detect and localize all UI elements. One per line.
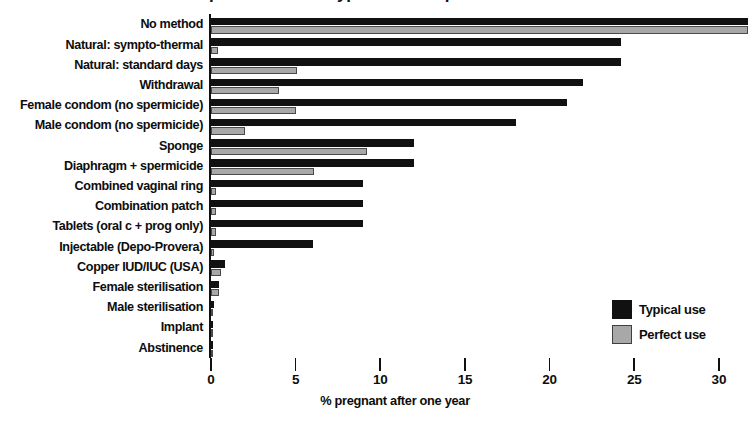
black-square-swatch (612, 300, 632, 319)
legend-item: Typical use (612, 300, 706, 319)
bar-typical (211, 281, 219, 288)
x-axis-tick (549, 358, 551, 371)
bar-typical (211, 341, 213, 348)
category-label: Male condom (no spermicide) (0, 119, 203, 132)
category-axis-labels: No methodNatural: sympto-thermalNatural:… (0, 14, 203, 358)
category-label: Sponge (0, 140, 203, 153)
category-label: Injectable (Depo-Provera) (0, 241, 203, 254)
x-axis-tick-label: 5 (292, 372, 299, 387)
bar-perfect (211, 188, 216, 195)
x-axis-title-text: % pregnant after one year (278, 393, 470, 408)
bar-typical (211, 260, 225, 267)
bar-perfect (211, 329, 213, 336)
gray-square-swatch (612, 325, 632, 344)
category-label: Female sterilisation (0, 281, 203, 294)
bar-typical (211, 58, 621, 65)
category-label: Female condom (no spermicide) (0, 99, 203, 112)
chart-legend: Typical usePerfect use (612, 300, 748, 350)
bar-perfect (211, 208, 216, 215)
x-axis-tick-label: 25 (627, 372, 642, 387)
x-axis-tick (210, 358, 212, 371)
bar-perfect (211, 107, 296, 114)
x-axis-tick-label: 20 (542, 372, 557, 387)
x-axis-tick-label: 30 (712, 372, 727, 387)
bar-typical (211, 119, 516, 126)
x-axis-tick (718, 358, 720, 371)
bar-perfect (211, 87, 279, 94)
x-axis-tick (633, 358, 635, 371)
bar-typical (211, 99, 567, 106)
category-label: Abstinence (0, 342, 203, 355)
bar-perfect (211, 168, 314, 175)
bar-perfect (211, 350, 213, 357)
bar-perfect (211, 67, 297, 74)
category-label: Natural: sympto-thermal (0, 39, 203, 52)
bar-typical (211, 321, 213, 328)
bar-typical (211, 79, 583, 86)
category-label: Combination patch (0, 200, 203, 213)
category-label: Natural: standard days (0, 59, 203, 72)
bar-typical (211, 159, 414, 166)
bar-typical (211, 240, 313, 247)
bar-perfect (211, 289, 219, 296)
category-label: Male sterilisation (0, 301, 203, 314)
x-axis: % pregnant after one year 051015202530 (0, 358, 748, 428)
category-label: Implant (0, 321, 203, 334)
x-axis-tick-label: 10 (373, 372, 388, 387)
category-label: Withdrawal (0, 79, 203, 92)
bar-typical (211, 139, 414, 146)
bar-perfect (211, 309, 213, 316)
bar-typical (211, 220, 363, 227)
category-label: Tablets (oral c + prog only) (0, 220, 203, 233)
legend-label: Perfect use (639, 327, 706, 342)
x-axis-tick (295, 358, 297, 371)
chart-title-text: Effectiveness of contraceptive methods: … (8, 0, 533, 4)
category-label: Combined vaginal ring (0, 180, 203, 193)
x-axis-tick-label: 15 (458, 372, 473, 387)
bar-perfect (211, 26, 748, 33)
chart-title-cropped: Effectiveness of contraceptive methods: … (0, 0, 748, 11)
category-label: Diaphragm + spermicide (0, 160, 203, 173)
x-axis-title: % pregnant after one year (0, 393, 748, 408)
bar-perfect (211, 249, 214, 256)
x-axis-tick-label: 0 (207, 372, 214, 387)
bar-perfect (211, 47, 218, 54)
bar-typical (211, 200, 363, 207)
bar-perfect (211, 148, 367, 155)
contraceptive-effectiveness-bar-chart: Effectiveness of contraceptive methods: … (0, 0, 748, 428)
bar-typical (211, 38, 621, 45)
x-axis-tick (464, 358, 466, 371)
bar-perfect (211, 269, 221, 276)
bar-perfect (211, 228, 216, 235)
bar-typical (211, 301, 214, 308)
bar-typical (211, 18, 748, 25)
x-axis-tick (379, 358, 381, 371)
legend-label: Typical use (639, 302, 706, 317)
bar-perfect (211, 127, 245, 134)
bar-typical (211, 180, 363, 187)
legend-item: Perfect use (612, 325, 706, 344)
category-label: No method (0, 18, 203, 31)
category-label: Copper IUD/IUC (USA) (0, 261, 203, 274)
